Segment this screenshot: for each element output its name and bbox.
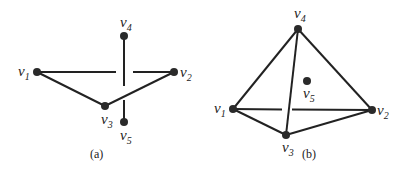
label-v5: v5 (303, 85, 315, 104)
edge-v3-v4 (286, 29, 298, 135)
label-v4: v4 (120, 14, 132, 33)
vertex-v3 (101, 102, 109, 110)
vertex-v4 (120, 32, 128, 40)
label-v1: v1 (18, 63, 30, 82)
figure-b: v1 v2 v3 v4 v5 (b) (214, 5, 389, 161)
edge-v1-v3 (37, 72, 105, 106)
vertex-v5 (303, 77, 311, 85)
edge-v1-v2-right (292, 110, 372, 111)
label-v2: v2 (180, 64, 192, 83)
vertex-v5 (120, 118, 128, 126)
vertex-v1 (33, 68, 41, 76)
label-v3: v3 (101, 111, 113, 130)
label-v1: v1 (214, 100, 226, 119)
vertex-v4 (294, 25, 302, 33)
edge-v1-v3 (233, 109, 286, 135)
edge-v2-v3 (286, 110, 372, 135)
label-v2: v2 (377, 102, 389, 121)
vertex-v3 (282, 131, 290, 139)
vertex-v1 (229, 105, 237, 113)
vertex-v2 (170, 68, 178, 76)
vertex-v2 (368, 106, 376, 114)
figure-a: v1 v2 v3 v4 v5 (a) (18, 14, 192, 161)
label-v4: v4 (294, 5, 306, 24)
caption-b: (b) (302, 147, 316, 161)
label-v3: v3 (282, 139, 294, 158)
caption-a: (a) (90, 147, 103, 161)
graph-figures: v1 v2 v3 v4 v5 (a) v1 v2 v3 v4 v5 (b) (0, 0, 402, 171)
edge-v2-v3 (105, 72, 174, 106)
edge-v1-v4 (233, 29, 298, 109)
label-v5: v5 (120, 127, 132, 146)
